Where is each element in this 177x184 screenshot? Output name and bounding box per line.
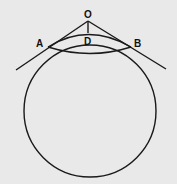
geometry-diagram: O A B D	[0, 0, 177, 184]
tangent-line-left	[16, 21, 88, 70]
main-circle	[24, 45, 156, 177]
label-a: A	[36, 38, 43, 49]
label-b: B	[134, 38, 141, 49]
label-o: O	[84, 9, 92, 20]
label-d: D	[84, 36, 91, 47]
